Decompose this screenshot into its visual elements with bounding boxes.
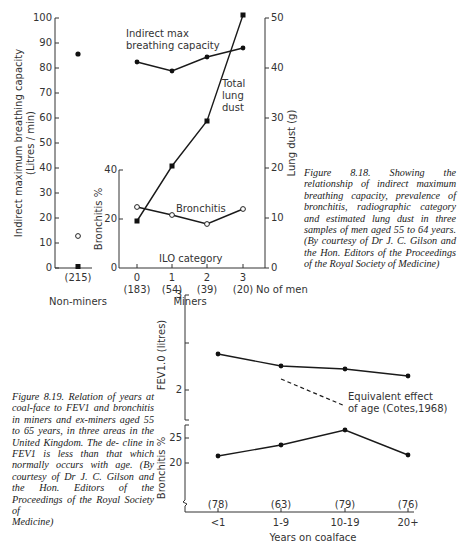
left-axis-unit: (Litres / min) xyxy=(25,111,36,175)
svg-text:0: 0 xyxy=(111,262,117,273)
svg-text:20+: 20+ xyxy=(397,517,418,528)
svg-text:40: 40 xyxy=(271,62,284,73)
lung-dust-series-label: Total xyxy=(221,78,245,89)
axis-break-icon xyxy=(183,500,187,512)
svg-text:20: 20 xyxy=(104,213,117,224)
svg-text:10: 10 xyxy=(271,212,284,223)
right-axis-label: Lung dust (g) xyxy=(286,110,297,177)
svg-text:90: 90 xyxy=(39,37,52,48)
bronchitis-axis-tick-labels: 0 20 40 xyxy=(104,164,117,273)
svg-text:30: 30 xyxy=(39,187,52,198)
svg-text:<1: <1 xyxy=(211,517,226,528)
lung-dust-series-label-2: lung xyxy=(222,90,244,101)
figure-8-19-chart: 2 3 FEV1.0 (litres) 20 25 Bronchitis % E… xyxy=(156,289,448,543)
figure-8-18-caption: Figure 8.18. Showing the relationship of… xyxy=(304,167,456,270)
svg-text:(39): (39) xyxy=(197,284,218,295)
svg-text:3: 3 xyxy=(176,289,182,300)
non-miners-dust-point xyxy=(76,264,81,269)
right-axis-tick-labels: 0 10 20 30 40 50 xyxy=(271,12,284,273)
svg-text:0: 0 xyxy=(271,262,277,273)
coalface-category-labels: <1 1-9 10-19 20+ xyxy=(211,517,419,528)
non-miners-bronchitis-point xyxy=(76,234,81,239)
svg-text:0: 0 xyxy=(134,272,140,283)
mbc-series-label-2: breathing capacity xyxy=(126,40,220,51)
svg-text:100: 100 xyxy=(33,12,52,23)
svg-text:2: 2 xyxy=(176,384,182,395)
men-count-labels-19: (78) (63) (79) (76) xyxy=(208,499,419,510)
svg-text:20: 20 xyxy=(169,457,182,468)
svg-text:25: 25 xyxy=(169,432,182,443)
svg-text:(63): (63) xyxy=(271,499,292,510)
bronchitis-19-points xyxy=(216,428,411,459)
svg-text:80: 80 xyxy=(39,62,52,73)
bronchitis-series-label: Bronchitis xyxy=(176,203,226,214)
x-axis-label-19: Years on coalface xyxy=(268,532,356,543)
svg-text:(215): (215) xyxy=(65,272,92,283)
svg-text:(76): (76) xyxy=(398,499,419,510)
svg-text:(78): (78) xyxy=(208,499,229,510)
ilo-category-label: ILO category xyxy=(159,253,222,264)
fev-line xyxy=(218,354,408,376)
left-axis-ticks xyxy=(55,18,59,268)
svg-text:(79): (79) xyxy=(335,499,356,510)
bronchitis-19-line xyxy=(218,430,408,456)
svg-text:20: 20 xyxy=(271,162,284,173)
age-effect-annotation: Equivalent effect xyxy=(348,391,433,402)
no-of-men-label: No of men xyxy=(256,284,308,295)
mbc-line xyxy=(137,48,243,71)
figure-8-19-caption: Figure 8.19. Relation of years at coal-f… xyxy=(12,391,154,528)
svg-text:50: 50 xyxy=(271,12,284,23)
svg-text:0: 0 xyxy=(46,262,52,273)
svg-text:1-9: 1-9 xyxy=(273,517,289,528)
non-miners-mbc-point xyxy=(75,51,80,56)
age-effect-dashed-line xyxy=(281,379,345,406)
svg-text:40: 40 xyxy=(104,164,117,175)
left-axis-label: Indirect maximum breathing capacity xyxy=(13,49,24,237)
figure-8-18-chart: 0 10 20 30 40 50 60 70 80 90 100 Indirec… xyxy=(13,12,308,307)
caption-line: Medicine) xyxy=(12,516,154,527)
svg-text:3: 3 xyxy=(240,272,246,283)
ilo-category-tick-labels: 0 1 2 3 xyxy=(134,272,246,283)
svg-text:2: 2 xyxy=(204,272,210,283)
caption-line: United Kingdom. The de- xyxy=(12,437,119,448)
svg-text:70: 70 xyxy=(39,87,52,98)
svg-text:(20): (20) xyxy=(233,284,254,295)
bronchitis-19-tick-labels: 20 25 xyxy=(169,432,182,468)
svg-text:(183): (183) xyxy=(124,284,151,295)
bronchitis-axis-label: Bronchitis % xyxy=(93,188,104,250)
svg-text:10-19: 10-19 xyxy=(330,517,359,528)
men-count-labels: (215) (183) (54) (39) (20) xyxy=(65,272,254,295)
svg-text:30: 30 xyxy=(271,112,284,123)
svg-text:60: 60 xyxy=(39,112,52,123)
svg-text:10: 10 xyxy=(39,237,52,248)
lung-dust-series-label-3: dust xyxy=(222,102,244,113)
fev-axis-label: FEV1.0 (litres) xyxy=(156,320,167,391)
bronchitis-19-axis-label: Bronchitis % xyxy=(156,437,167,499)
svg-text:40: 40 xyxy=(39,162,52,173)
mbc-series-label: Indirect max xyxy=(126,28,189,39)
non-miners-label: Non-miners xyxy=(49,296,107,307)
fev-points xyxy=(216,352,411,379)
svg-text:1: 1 xyxy=(169,272,175,283)
svg-text:20: 20 xyxy=(39,212,52,223)
caption-line: Figure 8.19. Relation of xyxy=(12,391,115,402)
age-effect-annotation-2: of age (Cotes,1968) xyxy=(348,403,448,414)
caption-line: years, in three areas in the xyxy=(38,425,154,436)
svg-text:50: 50 xyxy=(39,137,52,148)
